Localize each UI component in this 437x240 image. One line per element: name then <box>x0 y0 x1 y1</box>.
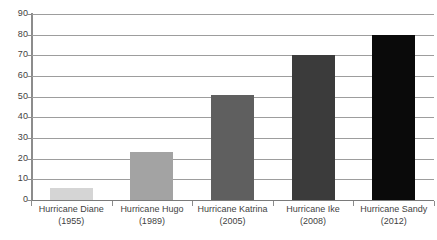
x-axis-category-label: Hurricane Ike(2008) <box>273 203 354 227</box>
y-axis-tick-label: 30 <box>4 133 28 142</box>
y-axis-tick-label: 70 <box>4 50 28 59</box>
x-axis-label-name: Hurricane Diane <box>31 203 112 215</box>
x-axis-tick-mark <box>273 201 274 206</box>
y-axis-tick-mark <box>27 117 32 118</box>
y-axis-tick-label: 80 <box>4 30 28 39</box>
bar <box>50 188 93 200</box>
x-axis-tick-mark <box>112 201 113 206</box>
x-axis-label-name: Hurricane Katrina <box>192 203 273 215</box>
x-axis-label-year: (2012) <box>353 215 434 227</box>
y-axis-tick-label: 10 <box>4 174 28 183</box>
bar <box>372 35 415 200</box>
gridline <box>31 14 434 15</box>
y-axis-tick-label: 20 <box>4 154 28 163</box>
x-axis-category-label: Hurricane Katrina(2005) <box>192 203 273 227</box>
x-axis-category-label: Hurricane Diane(1955) <box>31 203 112 227</box>
bar <box>130 152 173 200</box>
x-axis-label-year: (1955) <box>31 215 112 227</box>
bar-chart: 0102030405060708090 Hurricane Diane(1955… <box>0 0 437 240</box>
x-axis-tick-mark <box>192 201 193 206</box>
y-axis-tick-label: 50 <box>4 92 28 101</box>
x-axis-category-labels: Hurricane Diane(1955)Hurricane Hugo(1989… <box>31 203 434 240</box>
x-axis-category-label: Hurricane Hugo(1989) <box>112 203 193 227</box>
x-axis-label-year: (2005) <box>192 215 273 227</box>
bar <box>292 55 335 200</box>
x-axis-tick-mark <box>434 201 435 206</box>
plot-area <box>31 14 434 200</box>
y-axis-tick-mark <box>27 179 32 180</box>
x-axis-category-label: Hurricane Sandy(2012) <box>353 203 434 227</box>
y-axis-tick-mark <box>27 97 32 98</box>
y-axis-tick-mark <box>27 55 32 56</box>
x-axis-label-name: Hurricane Ike <box>273 203 354 215</box>
y-axis-tick-label: 60 <box>4 71 28 80</box>
x-axis-tick-mark <box>31 201 32 206</box>
y-axis-tick-label: 40 <box>4 112 28 121</box>
x-axis-tick-mark <box>353 201 354 206</box>
x-axis-label-name: Hurricane Sandy <box>353 203 434 215</box>
y-axis-tick-mark <box>27 76 32 77</box>
y-axis-tick-mark <box>27 159 32 160</box>
y-axis-tick-mark <box>27 35 32 36</box>
bar <box>211 95 254 200</box>
x-axis-label-year: (1989) <box>112 215 193 227</box>
x-axis-label-year: (2008) <box>273 215 354 227</box>
gridline <box>31 200 434 201</box>
y-axis-tick-labels: 0102030405060708090 <box>0 0 28 240</box>
x-axis-label-name: Hurricane Hugo <box>112 203 193 215</box>
y-axis-tick-label: 0 <box>4 195 28 204</box>
y-axis-tick-label: 90 <box>4 9 28 18</box>
y-axis-tick-mark <box>27 14 32 15</box>
y-axis-tick-mark <box>27 138 32 139</box>
